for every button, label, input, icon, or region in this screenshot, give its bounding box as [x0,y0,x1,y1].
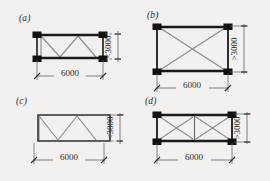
panel-a: (a) [0,0,135,91]
panel-a-height-text: <3000 [103,35,113,59]
panel-a-span-text: 6000 [61,68,80,78]
panel-d-height-text: >3000 [232,116,242,140]
panel-c-drawing: 6000 <3000 [0,90,135,181]
panel-d-span-text: 6000 [185,152,204,162]
panel-c-height-dimension: <3000 [105,113,124,144]
panel-b: (b) [135,0,270,91]
panel-b-drawing: 6000 >3000 [135,0,270,91]
panel-a-drawing: 6000 <3000 [0,0,135,91]
panel-b-height-dimension: >3000 [229,24,248,74]
panel-d-height-dimension: >3000 [232,112,251,144]
panel-a-span-dimension: 6000 [34,60,106,80]
panel-a-braces [41,36,96,57]
panel-c-span-dimension: 6000 [31,143,107,164]
panel-c-braces [39,116,96,140]
panel-c: (c) [0,90,135,181]
panel-a-height-dimension: <3000 [103,31,122,62]
panel-b-height-text: >3000 [229,37,239,61]
panel-d-span-dimension: 6000 [154,143,235,164]
panel-c-span-text: 6000 [60,152,79,162]
figure-sheet: (a) [0,0,270,181]
panel-d-drawing: 6000 >3000 [135,90,270,181]
panel-d: (d) [135,90,270,181]
panel-c-height-text: <3000 [105,116,115,140]
panel-b-span-text: 6000 [183,80,202,90]
panel-b-braces [160,28,225,70]
